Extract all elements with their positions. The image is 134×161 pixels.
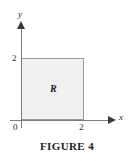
origin-tick-label: 0: [13, 123, 18, 132]
y-axis-label: y: [18, 10, 22, 19]
x-axis-line: [10, 120, 112, 121]
y-axis-arrow-icon: [17, 21, 25, 29]
y-axis-line: [21, 27, 22, 128]
x-axis-arrow-icon: [108, 116, 116, 124]
x-axis-label: x: [119, 113, 123, 122]
figure-4: R y x 2 0 2 FIGURE 4: [0, 0, 134, 161]
coordinate-plot: R y x 2 0 2: [0, 0, 134, 134]
y-axis-tick-label-2: 2: [12, 54, 17, 63]
x-axis-tick-label-2: 2: [79, 123, 84, 132]
region-label: R: [50, 84, 57, 94]
figure-caption: FIGURE 4: [0, 140, 134, 152]
